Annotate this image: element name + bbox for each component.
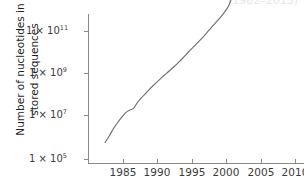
plot-area bbox=[0, 0, 304, 186]
data-series-line bbox=[105, 0, 304, 142]
y-axis-ticks bbox=[84, 32, 89, 160]
x-axis-ticks bbox=[124, 159, 296, 164]
chart-figure: (1982–2013) Number of nucleotides in sto… bbox=[0, 0, 304, 186]
